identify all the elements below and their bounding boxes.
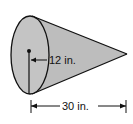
cone-base-ellipse: [11, 16, 49, 94]
cone-diagram: 12 in. 30 in.: [0, 0, 133, 124]
height-label: 30 in.: [62, 100, 89, 112]
radius-label: 12 in.: [49, 54, 76, 66]
height-right-arrowhead-icon: [120, 104, 126, 109]
height-left-arrowhead-icon: [31, 104, 37, 109]
